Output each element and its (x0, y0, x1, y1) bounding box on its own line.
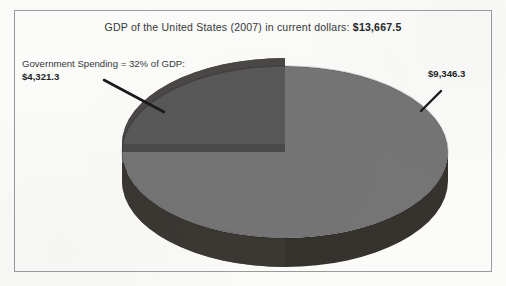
remainder-value-annotation: $9,346.3 (428, 68, 465, 81)
chart-title-total: $13,667.5 (353, 21, 402, 33)
chart-title: GDP of the United States (2007) in curre… (0, 21, 506, 33)
pie-chart-graphic (0, 0, 506, 286)
chart-area: GDP of the United States (2007) in curre… (0, 0, 506, 286)
chart-title-prefix: GDP of the United States (2007) in curre… (105, 21, 353, 33)
government-spending-value: $4,321.3 (22, 71, 185, 84)
pie-chart-document: GDP of the United States (2007) in curre… (0, 0, 506, 286)
private-leader-line (421, 91, 441, 111)
government-spending-label: Government Spending = 32% of GDP: (22, 58, 185, 71)
government-spending-annotation: Government Spending = 32% of GDP: $4,321… (22, 58, 185, 83)
